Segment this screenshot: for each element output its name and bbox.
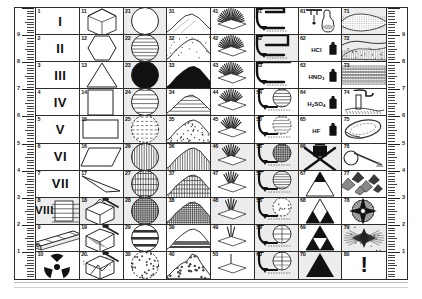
symbol-cell-78[interactable]: 78	[342, 198, 386, 225]
symbol-cell-11[interactable]: 11	[80, 8, 124, 35]
ruler-tick	[27, 95, 34, 96]
symbol-cell-79[interactable]: 79	[342, 225, 386, 252]
ruler-tick	[27, 11, 34, 12]
symbol-cell-46[interactable]: 46	[211, 144, 255, 171]
symbol-cell-61[interactable]: 61	[299, 8, 343, 35]
symbol-cell-9[interactable]: 9	[36, 225, 80, 252]
symbol-cell-19[interactable]: 19	[80, 225, 124, 252]
symbol-cell-40[interactable]: 40	[167, 252, 211, 279]
symbol-cell-52[interactable]: 52	[255, 35, 299, 62]
symbol-cell-71[interactable]: 71	[342, 8, 386, 35]
symbol-cell-31[interactable]: 31	[167, 8, 211, 35]
symbol-cell-76[interactable]: 76	[342, 144, 386, 171]
ruler-tick	[388, 187, 395, 188]
symbol-cell-29[interactable]: 29	[124, 225, 168, 252]
symbol-cell-7[interactable]: 7VII	[36, 171, 80, 198]
symbol-cell-2[interactable]: 2II	[36, 35, 80, 62]
symbol-cell-59[interactable]: 59	[255, 225, 299, 252]
symbol-cell-72[interactable]: 72	[342, 35, 386, 62]
symbol-cell-53[interactable]: 53	[255, 62, 299, 89]
ruler-tick	[27, 190, 34, 191]
ruler-tick	[388, 265, 397, 266]
ruler-tick	[388, 84, 395, 85]
symbol-cell-57[interactable]: 57	[255, 171, 299, 198]
cell-number: 20	[81, 252, 87, 257]
symbol-cell-42[interactable]: 42	[211, 35, 255, 62]
symbol-cell-56[interactable]: 56	[255, 144, 299, 171]
ruler-tick	[388, 95, 395, 96]
symbol-cell-35[interactable]: 35	[167, 116, 211, 143]
symbol-cell-74[interactable]: 74	[342, 89, 386, 116]
symbol-cell-8[interactable]: 8VIII	[36, 198, 80, 225]
symbol-cell-6[interactable]: 6VI	[36, 144, 80, 171]
symbol-cell-23[interactable]: 23	[124, 62, 168, 89]
symbol-cell-62[interactable]: 62HCl	[299, 35, 343, 62]
cell-number: 21	[125, 9, 131, 14]
symbol-cell-70[interactable]: 70	[299, 252, 343, 279]
symbol-cell-64[interactable]: 64H2SO4	[299, 89, 343, 116]
symbol-cell-17[interactable]: 17	[80, 171, 124, 198]
symbol-cell-37[interactable]: 37	[167, 171, 211, 198]
symbol-cell-45[interactable]: 45	[211, 116, 255, 143]
symbol-cell-15[interactable]: 15	[80, 116, 124, 143]
symbol-cell-14[interactable]: 14	[80, 89, 124, 116]
ruler-tick	[27, 214, 34, 215]
symbol-cell-25[interactable]: 25	[124, 116, 168, 143]
symbol-cell-50[interactable]: 50	[211, 252, 255, 279]
symbol-cell-39[interactable]: 39	[167, 225, 211, 252]
symbol-cell-54[interactable]: 54	[255, 89, 299, 116]
symbol-cell-20[interactable]: 20	[80, 252, 124, 279]
symbol-cell-24[interactable]: 24	[124, 89, 168, 116]
symbol-cell-5[interactable]: 5V	[36, 116, 80, 143]
symbol-cell-38[interactable]: 38	[167, 198, 211, 225]
symbol-cell-55[interactable]: 55	[255, 116, 299, 143]
symbol-cell-10[interactable]: 10	[36, 252, 80, 279]
ruler-left-ticks: 987654321	[15, 8, 35, 279]
symbol-cell-34[interactable]: 34	[167, 89, 211, 116]
cell-number: 50	[213, 252, 219, 257]
symbol-cell-80[interactable]: 80!	[342, 252, 386, 279]
symbol-cell-28[interactable]: 28	[124, 198, 168, 225]
symbol-cell-44[interactable]: 44	[211, 89, 255, 116]
ruler-tick	[27, 192, 34, 193]
cell-symbol-roman: VI	[36, 144, 79, 170]
symbol-cell-1[interactable]: 1I	[36, 8, 80, 35]
symbol-cell-51[interactable]: 51	[255, 8, 299, 35]
symbol-cell-75[interactable]: 75	[342, 116, 386, 143]
symbol-cell-49[interactable]: 49	[211, 225, 255, 252]
symbol-cell-67[interactable]: 67	[299, 171, 343, 198]
symbol-cell-66[interactable]: 66	[299, 144, 343, 171]
ruler-tick	[25, 265, 34, 266]
symbol-cell-41[interactable]: 41	[211, 8, 255, 35]
ruler-tick	[27, 244, 34, 245]
ruler-tick	[388, 271, 395, 272]
symbol-cell-4[interactable]: 4IV	[36, 89, 80, 116]
symbol-cell-68[interactable]: 68	[299, 198, 343, 225]
symbol-cell-65[interactable]: 65HF	[299, 116, 343, 143]
symbol-cell-16[interactable]: 16	[80, 144, 124, 171]
ruler-tick	[388, 32, 395, 33]
symbol-cell-22[interactable]: 22	[124, 35, 168, 62]
symbol-cell-48[interactable]: 48	[211, 198, 255, 225]
symbol-cell-3[interactable]: 3III	[36, 62, 80, 89]
symbol-cell-43[interactable]: 43	[211, 62, 255, 89]
symbol-cell-77[interactable]: 77	[342, 171, 386, 198]
symbol-cell-33[interactable]: 33	[167, 62, 211, 89]
symbol-cell-60[interactable]: 60	[255, 252, 299, 279]
symbol-cell-12[interactable]: 12	[80, 35, 124, 62]
symbol-cell-58[interactable]: 58	[255, 198, 299, 225]
symbol-cell-30[interactable]: 30	[124, 252, 168, 279]
cell-number: 31	[169, 9, 175, 14]
ruler-tick	[388, 276, 395, 277]
symbol-cell-27[interactable]: 27	[124, 171, 168, 198]
symbol-cell-18[interactable]: 18	[80, 198, 124, 225]
symbol-cell-32[interactable]: 32	[167, 35, 211, 62]
symbol-cell-36[interactable]: 36	[167, 144, 211, 171]
symbol-cell-69[interactable]: 69	[299, 225, 343, 252]
symbol-cell-21[interactable]: 21	[124, 8, 168, 35]
symbol-cell-26[interactable]: 26	[124, 144, 168, 171]
symbol-cell-73[interactable]: 73	[342, 62, 386, 89]
symbol-cell-63[interactable]: 63HNO3	[299, 62, 343, 89]
symbol-cell-47[interactable]: 47	[211, 171, 255, 198]
symbol-cell-13[interactable]: 13	[80, 62, 124, 89]
